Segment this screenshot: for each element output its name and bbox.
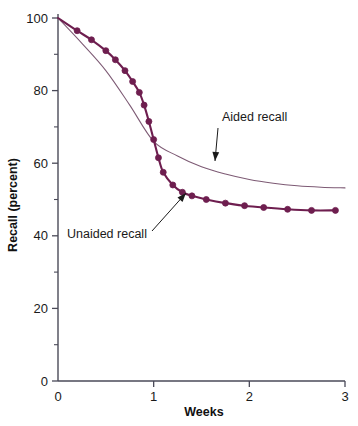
data-point-marker	[112, 57, 118, 63]
data-point-marker	[160, 169, 166, 175]
data-point-marker	[203, 197, 209, 203]
data-point-marker	[151, 137, 157, 143]
annotation-label: Unaided recall	[67, 227, 147, 241]
data-point-marker	[285, 206, 291, 212]
data-point-marker	[103, 48, 109, 54]
data-point-marker	[261, 204, 267, 210]
recall-decay-line-chart: 020406080100 0123 Aided recallUnaided re…	[0, 0, 358, 426]
data-point-marker	[242, 203, 248, 209]
data-point-marker	[170, 182, 176, 188]
chart-background	[0, 0, 358, 426]
x-tick-label: 3	[341, 389, 348, 404]
x-tick-label: 0	[54, 389, 61, 404]
data-point-marker	[74, 28, 80, 34]
y-tick-label: 40	[34, 228, 48, 243]
data-point-marker	[122, 68, 128, 74]
chart-container: 020406080100 0123 Aided recallUnaided re…	[0, 0, 358, 426]
data-point-marker	[88, 37, 94, 43]
annotation-label: Aided recall	[222, 110, 287, 124]
data-point-marker	[222, 200, 228, 206]
data-point-marker	[155, 155, 161, 161]
y-tick-label: 80	[34, 83, 48, 98]
data-point-marker	[146, 118, 152, 124]
y-tick-label: 20	[34, 301, 48, 316]
data-point-marker	[189, 193, 195, 199]
x-tick-label: 1	[150, 389, 157, 404]
y-tick-label: 100	[26, 11, 48, 26]
data-point-marker	[309, 207, 315, 213]
data-point-marker	[130, 79, 136, 85]
x-tick-label: 2	[246, 389, 253, 404]
y-axis-title: Recall (percent)	[6, 158, 20, 252]
data-point-marker	[141, 102, 147, 108]
data-point-marker	[136, 89, 142, 95]
y-tick-label: 0	[41, 374, 48, 389]
x-axis-title: Weeks	[184, 405, 223, 419]
y-tick-label: 60	[34, 156, 48, 171]
data-point-marker	[332, 207, 338, 213]
